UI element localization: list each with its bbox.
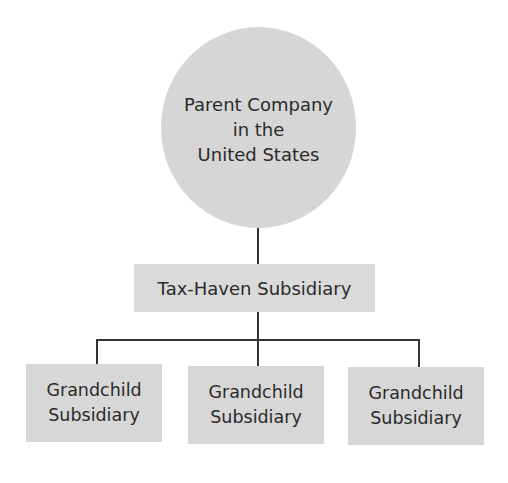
- grandchild-subsidiary-node-2: Grandchild Subsidiary: [188, 366, 324, 444]
- connector-to-left-child: [96, 339, 98, 364]
- grandchild-1-line-1: Grandchild: [46, 378, 141, 403]
- grandchild-3-line-2: Subsidiary: [368, 406, 463, 431]
- grandchild-2-line-2: Subsidiary: [208, 405, 303, 430]
- grandchild-3-line-1: Grandchild: [368, 381, 463, 406]
- connector-to-right-child: [418, 339, 420, 367]
- tax-haven-subsidiary-label: Tax-Haven Subsidiary: [158, 278, 352, 299]
- parent-label-line-3: United States: [184, 142, 333, 167]
- grandchild-1-line-2: Subsidiary: [46, 403, 141, 428]
- ownership-diagram: Parent Company in the United States Tax-…: [0, 0, 508, 483]
- connector-horizontal-bar: [96, 339, 419, 341]
- grandchild-subsidiary-node-3: Grandchild Subsidiary: [348, 367, 484, 445]
- parent-label-line-2: in the: [184, 117, 333, 142]
- connector-parent-to-taxhaven: [257, 228, 259, 264]
- grandchild-subsidiary-node-1: Grandchild Subsidiary: [26, 364, 162, 442]
- parent-company-label: Parent Company in the United States: [184, 92, 333, 167]
- tax-haven-subsidiary-node: Tax-Haven Subsidiary: [134, 264, 375, 312]
- grandchild-2-line-1: Grandchild: [208, 380, 303, 405]
- parent-label-line-1: Parent Company: [184, 92, 333, 117]
- parent-company-node: Parent Company in the United States: [161, 27, 356, 228]
